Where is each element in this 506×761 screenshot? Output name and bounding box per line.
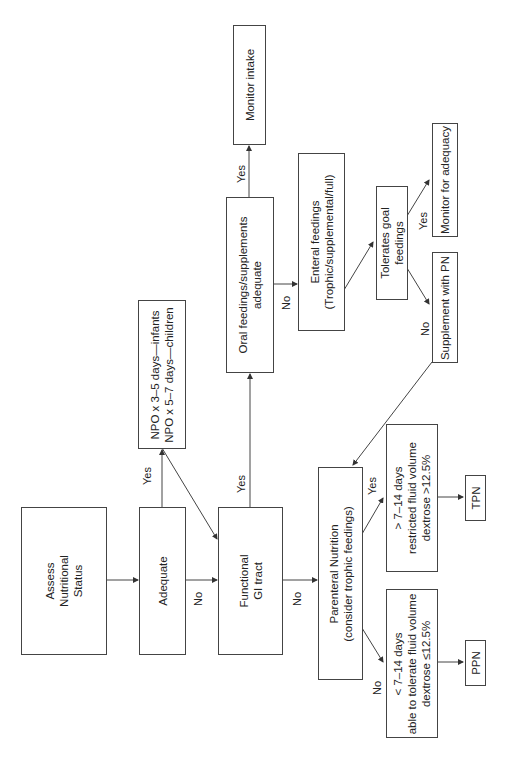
node-greater-than-7-14-days: > 7–14 daysrestricted fluid volumedextro… xyxy=(386,424,438,572)
node-monitor-for-adequacy: Monitor for adequacy xyxy=(432,123,458,237)
node-text: adequate xyxy=(250,217,264,354)
node-text: Nutritional xyxy=(57,555,71,607)
edge-label-pn-no: No xyxy=(371,681,383,695)
node-parenteral-nutrition: Parenteral Nutrition(consider trophic fe… xyxy=(318,467,363,680)
edge-label-tolerates-no: No xyxy=(419,322,431,336)
node-tolerates-goal-feedings: Tolerates goalfeedings xyxy=(376,186,408,300)
edge-label-gi-yes: Yes xyxy=(235,475,247,493)
node-text: Functional xyxy=(237,554,251,607)
node-text: < 7–14 days xyxy=(391,593,405,734)
node-oral-feedings-adequate: Oral feedings/supplementsadequate xyxy=(226,197,274,373)
node-enteral-feedings: Enteral feedings(Trophic/supplemental/fu… xyxy=(298,153,345,331)
node-text: feedings xyxy=(392,207,406,279)
node-text: (consider trophic feedings) xyxy=(341,506,355,642)
node-text: Oral feedings/supplements xyxy=(236,217,250,354)
node-text: dextrose ≤12.5% xyxy=(419,593,433,734)
edge-label-oral-no: No xyxy=(280,296,292,310)
node-text: (Trophic/supplemental/full) xyxy=(322,174,336,309)
edge-label-adequate-yes: Yes xyxy=(141,467,153,485)
node-text: TPN xyxy=(469,487,483,510)
edge-label-adequate-no: No xyxy=(192,592,204,606)
node-text: Adequate xyxy=(156,556,170,605)
node-text: Monitor intake xyxy=(243,49,257,121)
node-text: Enteral feedings xyxy=(308,174,322,309)
edge-label-tolerates-yes: Yes xyxy=(417,212,429,230)
node-supplement-with-pn: Supplement with PN xyxy=(432,252,458,363)
node-assess-nutritional-status: AssessNutritionalStatus xyxy=(21,507,107,655)
node-tpn: TPN xyxy=(465,475,486,521)
edge-label-pn-yes: Yes xyxy=(366,477,378,495)
node-adequate: Adequate xyxy=(139,507,186,655)
node-text: GI tract xyxy=(251,554,265,607)
node-less-than-7-14-days: < 7–14 daysable to tolerate fluid volume… xyxy=(386,589,438,738)
edge-label-gi-no: No xyxy=(291,592,303,606)
node-text: restricted fluid volume xyxy=(405,442,419,554)
node-text: Supplement with PN xyxy=(438,255,452,359)
edge-label-oral-yes: Yes xyxy=(235,165,247,183)
node-monitor-intake: Monitor intake xyxy=(233,25,266,145)
node-text: NPO x 5–7 days—children xyxy=(162,307,176,443)
node-text: > 7–14 days xyxy=(391,442,405,554)
node-text: NPO x 3–5 days—infants xyxy=(148,307,162,443)
node-text: Monitor for adequacy xyxy=(438,126,452,234)
node-text: Tolerates goal xyxy=(378,207,392,279)
node-text: PPN xyxy=(469,651,483,675)
node-text: able to tolerate fluid volume xyxy=(405,593,419,734)
node-text: Status xyxy=(71,555,85,607)
node-npo: NPO x 3–5 days—infantsNPO x 5–7 days—chi… xyxy=(138,300,186,449)
node-text: Assess xyxy=(43,555,57,607)
node-functional-gi-tract: FunctionalGI tract xyxy=(218,507,283,655)
node-text: Parenteral Nutrition xyxy=(327,506,341,642)
node-ppn: PPN xyxy=(465,640,486,686)
node-text: dextrose >12.5% xyxy=(419,442,433,554)
